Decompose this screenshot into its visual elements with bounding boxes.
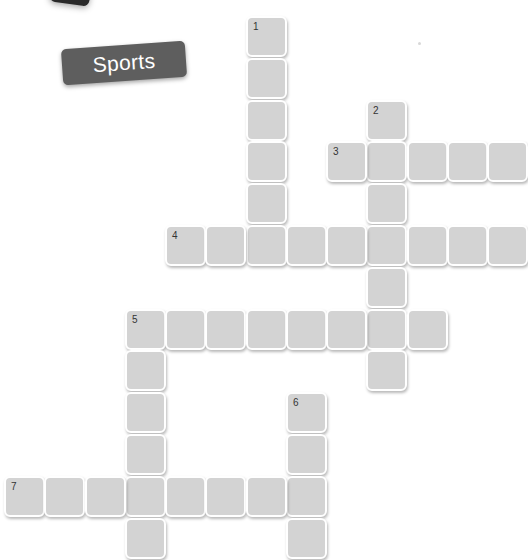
crossword-cell[interactable] <box>246 225 287 266</box>
crossword-cell[interactable] <box>366 350 407 391</box>
crossword-cell[interactable] <box>366 309 407 350</box>
crossword-cell[interactable] <box>366 183 407 224</box>
crossword-cell[interactable] <box>125 350 166 391</box>
crossword-cell[interactable] <box>165 309 206 350</box>
crossword-cell[interactable]: 1 <box>246 16 287 57</box>
clue-number: 7 <box>11 481 17 492</box>
crossword-cell[interactable] <box>246 58 287 99</box>
crossword-cell[interactable] <box>326 309 367 350</box>
crossword-cell[interactable] <box>286 476 327 517</box>
crossword-cell[interactable] <box>286 434 327 475</box>
crossword-cell[interactable] <box>487 141 528 182</box>
crossword-cell[interactable] <box>205 309 246 350</box>
clue-number: 2 <box>373 105 379 116</box>
crossword-cell[interactable] <box>205 225 246 266</box>
crossword-cell[interactable] <box>246 309 287 350</box>
crossword-cell[interactable] <box>246 476 287 517</box>
clue-number: 1 <box>253 21 259 32</box>
crossword-cell[interactable] <box>487 225 528 266</box>
crossword-cell[interactable] <box>246 141 287 182</box>
clue-number: 3 <box>333 146 339 157</box>
crossword-cell[interactable]: 5 <box>125 309 166 350</box>
crossword-cell[interactable] <box>44 476 85 517</box>
crossword-cell[interactable] <box>125 434 166 475</box>
crossword-cell[interactable] <box>366 141 407 182</box>
crossword-cell[interactable] <box>407 141 448 182</box>
crossword-cell[interactable] <box>165 476 206 517</box>
clue-number: 5 <box>132 314 138 325</box>
crossword-cell[interactable]: 2 <box>366 100 407 141</box>
crossword-cell[interactable] <box>286 518 327 559</box>
crossword-cell[interactable]: 4 <box>165 225 206 266</box>
crossword-cell[interactable] <box>85 476 126 517</box>
crossword-cell[interactable]: 3 <box>326 141 367 182</box>
crossword-cell[interactable] <box>125 392 166 433</box>
crossword-cell[interactable] <box>407 309 448 350</box>
crossword-cell[interactable] <box>326 225 367 266</box>
crossword-cell[interactable] <box>125 518 166 559</box>
clue-number: 4 <box>172 230 178 241</box>
crossword-cell[interactable] <box>125 476 166 517</box>
crossword-cell[interactable] <box>286 309 327 350</box>
crossword-cell[interactable] <box>447 141 488 182</box>
clue-number: 6 <box>293 397 299 408</box>
crossword-cell[interactable] <box>366 225 407 266</box>
crossword-cell[interactable] <box>366 267 407 308</box>
crossword-cell[interactable] <box>447 225 488 266</box>
crossword-cell[interactable] <box>286 225 327 266</box>
crossword-cell[interactable] <box>246 183 287 224</box>
crossword-cell[interactable] <box>407 225 448 266</box>
crossword-cell[interactable]: 7 <box>4 476 45 517</box>
crossword-cell[interactable] <box>246 100 287 141</box>
crossword-cell[interactable] <box>205 476 246 517</box>
crossword-cell[interactable]: 6 <box>286 392 327 433</box>
